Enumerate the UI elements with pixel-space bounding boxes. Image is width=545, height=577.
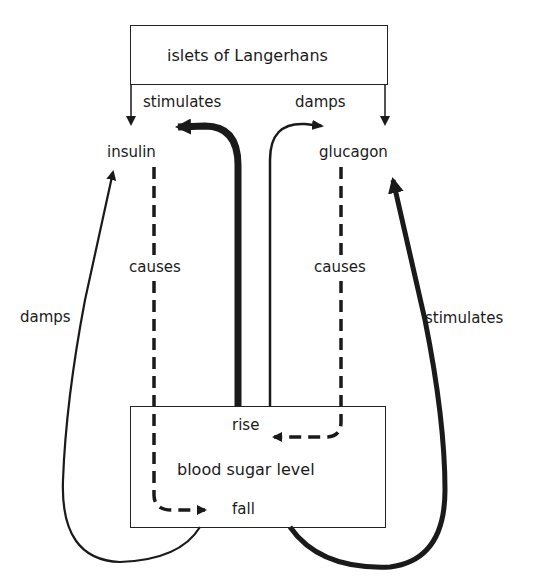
stimulates-label-top: stimulates <box>143 95 221 110</box>
causes-label-left: causes <box>129 258 181 277</box>
islets-of-langerhans-label: islets of Langerhans <box>167 48 328 64</box>
rise-label: rise <box>232 418 259 433</box>
fall-label: fall <box>232 502 255 517</box>
diagram-canvas: islets of Langerhans stimulates damps in… <box>0 0 545 577</box>
damps-label-side: damps <box>20 310 71 325</box>
causes-label-right: causes <box>314 258 366 277</box>
blood-sugar-level-label: blood sugar level <box>175 462 317 478</box>
glucagon-label: glucagon <box>319 145 388 160</box>
glucagon-causes-rise-arrow <box>274 167 341 437</box>
damps-label-top: damps <box>295 95 346 110</box>
rise-stimulates-insulin-arrow <box>178 126 238 406</box>
insulin-label: insulin <box>107 145 156 160</box>
stimulates-label-side: stimulates <box>425 311 503 326</box>
